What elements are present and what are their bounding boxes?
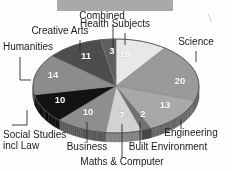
pie-depth-segment	[51, 115, 53, 125]
pie-depth-segment	[92, 131, 94, 140]
pie-depth-segment	[87, 130, 89, 139]
pie-depth-segment	[53, 116, 55, 126]
slice-label: Business	[67, 141, 108, 152]
pie-depth-segment	[50, 114, 51, 124]
slice-value: 10	[83, 106, 94, 117]
pie-depth-segment	[151, 128, 154, 138]
slice-value: 2	[140, 108, 145, 119]
slice-label: Maths & Computer	[80, 156, 164, 167]
pie-depth-segment	[117, 133, 119, 142]
slice-value: 10	[120, 48, 131, 59]
pie-depth-segment	[159, 125, 162, 135]
slice-label: Creative Arts	[31, 25, 88, 36]
pie-depth-segment	[135, 131, 137, 140]
pie-depth-segment	[76, 127, 78, 137]
pie-depth-segment	[83, 129, 85, 139]
pie-depth-segment	[57, 119, 59, 129]
slice-value: 11	[81, 50, 92, 61]
slice-value: 20	[175, 75, 186, 86]
pie-depth-segment	[54, 117, 56, 127]
pie-chart-svg: 10201327101014113 Health SubjectsScience…	[0, 0, 232, 171]
pie-depth-segment	[109, 133, 111, 142]
pie-depth-segment	[94, 131, 96, 140]
pie-depth-segment	[70, 125, 72, 135]
pie-depth-segment	[125, 133, 127, 142]
pie-depth-segment	[130, 132, 132, 141]
pie-depth-segment	[154, 127, 157, 137]
pie-depth-segment	[111, 133, 113, 142]
slice-value: 13	[160, 99, 171, 110]
pie-depth-segment	[114, 133, 116, 142]
slice-value: 7	[119, 109, 124, 120]
pie-depth-segment	[74, 127, 76, 137]
pie-slices	[33, 39, 199, 133]
pie-depth-segment	[72, 126, 74, 136]
slice-label: Science	[178, 36, 214, 47]
pie-chart-figure: 10201327101014113 Health SubjectsScience…	[0, 0, 232, 171]
pie-depth-segment	[89, 131, 91, 140]
pie-depth-segment	[112, 133, 114, 142]
pie-depth-segment	[124, 133, 126, 142]
slice-label: Humanities	[3, 41, 53, 52]
pie-depth-segment	[66, 124, 68, 134]
pie-depth-segment	[137, 131, 139, 140]
slice-value: 10	[55, 94, 66, 105]
pie-depth-segment	[48, 113, 49, 123]
pie-depth-segment	[134, 132, 136, 141]
slice-value: 3	[109, 45, 114, 56]
slice-label: Built Environment	[129, 141, 208, 152]
pie-depth-segment	[56, 118, 58, 128]
stray-pen-mark: \	[208, 10, 212, 25]
pie-depth-segment	[96, 132, 98, 141]
pie-depth-segment	[79, 128, 81, 138]
pie-depth-segment	[119, 133, 121, 142]
pie-depth-segment	[132, 132, 134, 141]
pie-depth-segment	[107, 133, 109, 142]
pie-depth-segment	[68, 124, 70, 134]
slice-label: Engineering	[164, 127, 217, 138]
pie-depth-segment	[157, 126, 160, 136]
pie-depth-segment	[99, 132, 101, 141]
slice-label: Combined	[79, 10, 125, 21]
pie-depth-segment	[116, 133, 118, 142]
pie-depth-segment	[81, 129, 83, 139]
slice-value: 14	[48, 69, 59, 80]
